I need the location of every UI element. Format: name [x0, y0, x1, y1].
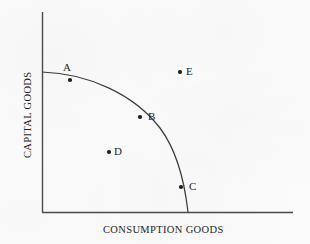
data-point-e-label: E: [186, 66, 193, 77]
data-point-c-dot: [179, 185, 183, 189]
x-axis-title: CONSUMPTION GOODS: [103, 224, 224, 235]
y-axis-title: CAPITAL GOODS: [22, 72, 33, 158]
ppf-plot-area: [0, 0, 310, 244]
data-point-c-label: C: [189, 181, 197, 192]
data-point-a-dot: [68, 78, 72, 82]
data-point-a-label: A: [63, 62, 71, 73]
data-point-d-dot: [107, 150, 111, 154]
data-point-b-label: B: [148, 111, 156, 122]
data-point-e-dot: [178, 70, 182, 74]
ppf-chart-figure: A B C D E CONSUMPTION GOODS CAPITAL GOOD…: [0, 0, 310, 244]
data-point-b-dot: [138, 115, 142, 119]
ppf-curve: [42, 72, 188, 212]
data-point-d-label: D: [114, 146, 122, 157]
